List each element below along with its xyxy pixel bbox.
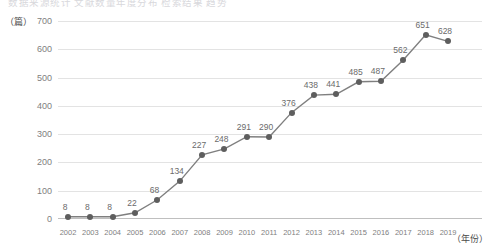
data-point-label: 290 xyxy=(253,122,279,132)
data-point[interactable] xyxy=(110,214,116,220)
data-point[interactable] xyxy=(65,214,71,220)
y-axis-tick: 700 xyxy=(22,16,52,26)
data-point-label: 487 xyxy=(365,66,391,76)
x-axis-tick: 2002 xyxy=(56,228,80,237)
x-axis-tick: 2006 xyxy=(145,228,169,237)
y-axis-tick: 600 xyxy=(22,44,52,54)
data-point[interactable] xyxy=(333,91,339,97)
x-axis-tick: 2017 xyxy=(391,228,415,237)
data-point-label: 562 xyxy=(387,45,413,55)
data-point-label: 22 xyxy=(119,198,145,208)
data-point[interactable] xyxy=(356,79,362,85)
x-axis-tick: 2009 xyxy=(212,228,236,237)
data-point[interactable] xyxy=(87,214,93,220)
data-point[interactable] xyxy=(289,110,295,116)
data-point[interactable] xyxy=(423,32,429,38)
data-point[interactable] xyxy=(311,92,317,98)
data-point-label: 441 xyxy=(320,79,346,89)
x-axis-tick: 2010 xyxy=(235,228,259,237)
data-point[interactable] xyxy=(132,210,138,216)
x-axis-tick: 2005 xyxy=(123,228,147,237)
y-axis-tick: 100 xyxy=(22,186,52,196)
x-axis-tick: 2014 xyxy=(324,228,348,237)
data-point[interactable] xyxy=(177,178,183,184)
data-point[interactable] xyxy=(244,134,250,140)
series-line xyxy=(58,21,482,219)
x-axis-tick: 2016 xyxy=(369,228,393,237)
data-point-label: 68 xyxy=(141,185,167,195)
x-axis-tick: 2013 xyxy=(302,228,326,237)
data-point-label: 628 xyxy=(432,26,458,36)
data-point-label: 134 xyxy=(164,166,190,176)
x-axis-tick: 2019 xyxy=(436,228,460,237)
y-axis-tick: 400 xyxy=(22,101,52,111)
x-axis-tick: 2015 xyxy=(347,228,371,237)
data-point[interactable] xyxy=(445,38,451,44)
data-point-label: 376 xyxy=(276,98,302,108)
x-axis-tick: 2011 xyxy=(257,228,281,237)
x-axis-tick: 2007 xyxy=(168,228,192,237)
data-point-label: 248 xyxy=(208,134,234,144)
x-axis-tick: 2012 xyxy=(280,228,304,237)
x-axis-tick: 2008 xyxy=(190,228,214,237)
x-axis-tick: 2004 xyxy=(101,228,125,237)
data-point[interactable] xyxy=(266,134,272,140)
data-point[interactable] xyxy=(378,78,384,84)
y-axis-tick: 0 xyxy=(22,214,52,224)
x-axis-tick: 2018 xyxy=(414,228,438,237)
data-point[interactable] xyxy=(154,197,160,203)
cut-off-title: 数据来源统计 文献数量年度分布 检索结果 趋势 xyxy=(0,0,494,9)
y-axis-tick: 200 xyxy=(22,157,52,167)
y-axis-tick: 300 xyxy=(22,129,52,139)
y-axis-tick: 500 xyxy=(22,73,52,83)
cut-off-title-text: 数据来源统计 文献数量年度分布 检索结果 趋势 xyxy=(8,0,227,9)
data-point[interactable] xyxy=(199,152,205,158)
data-point[interactable] xyxy=(221,146,227,152)
x-axis-tick: 2003 xyxy=(78,228,102,237)
line-chart: 数据来源统计 文献数量年度分布 检索结果 趋势 （篇） （年份） 7006005… xyxy=(0,0,494,249)
data-point[interactable] xyxy=(400,57,406,63)
